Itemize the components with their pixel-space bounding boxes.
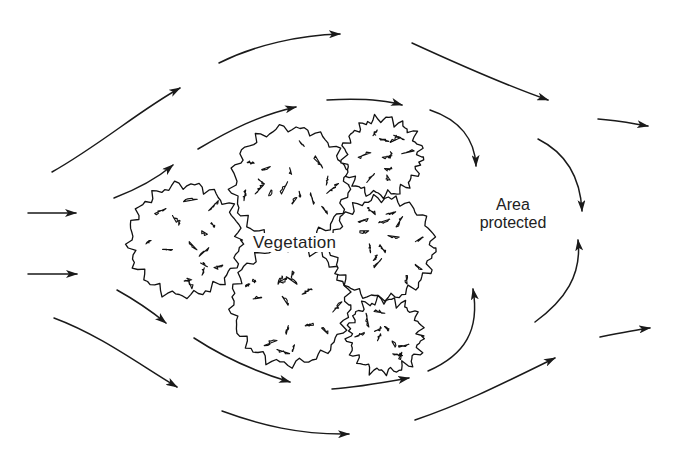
area-label-line2: protected bbox=[468, 214, 558, 232]
arrow-outflow-upper-icon bbox=[598, 119, 648, 126]
arrow-upper-1-icon bbox=[52, 88, 180, 172]
foliage-outline bbox=[228, 125, 350, 247]
arrow-lower-4-icon bbox=[222, 411, 349, 434]
arrow-lower-5-icon bbox=[332, 378, 409, 389]
clump-top-right bbox=[341, 114, 424, 198]
area-protected-label: Area protected bbox=[468, 196, 558, 232]
arrow-upper-4-icon bbox=[219, 34, 340, 63]
clump-bottom-center bbox=[229, 242, 351, 369]
clump-left bbox=[126, 181, 244, 299]
arrow-upper-6-icon bbox=[412, 43, 548, 100]
foliage-outline bbox=[229, 242, 351, 369]
area-label-line1: Area bbox=[468, 196, 558, 214]
arrow-upper-5-icon bbox=[327, 99, 402, 105]
diagram-canvas: Vegetation Area protected bbox=[0, 0, 679, 455]
clump-top-center bbox=[228, 125, 350, 247]
arrow-outflow-lower-icon bbox=[600, 328, 650, 337]
arrow-lower-2-icon bbox=[54, 318, 177, 387]
arrow-lower-1-icon bbox=[117, 290, 166, 323]
arrow-curl-bottom-1-icon bbox=[428, 289, 475, 371]
clump-bottom-right bbox=[345, 295, 424, 375]
arrow-curl-bottom-2-icon bbox=[535, 240, 579, 322]
clump-mid-right bbox=[329, 195, 436, 302]
arrow-curl-top-1-icon bbox=[430, 110, 476, 166]
vegetation-label: Vegetation bbox=[250, 233, 339, 252]
flow-diagram bbox=[0, 0, 679, 455]
foliage-outline bbox=[341, 114, 424, 198]
